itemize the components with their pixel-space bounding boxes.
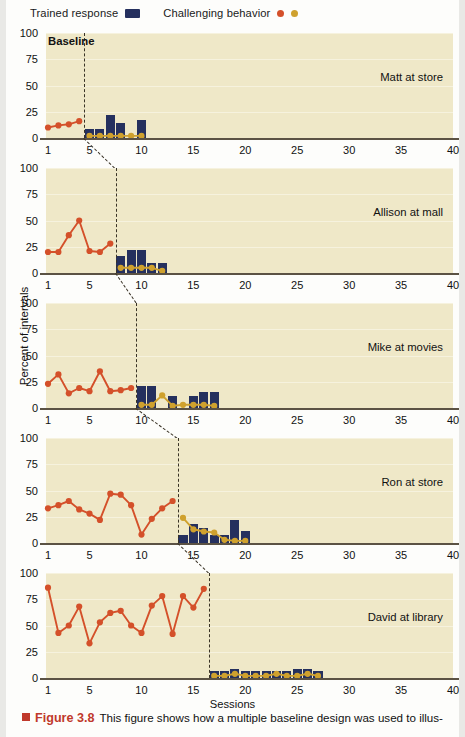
y-axis-tick-label: 50 [26, 485, 38, 497]
x-axis-tick-label: 25 [291, 549, 303, 561]
data-series-overlay [46, 438, 453, 543]
phase-change-line [209, 573, 210, 678]
caption-figure-number: Figure 3.8 [35, 711, 95, 725]
phase-change-line [116, 168, 117, 273]
x-axis-line [40, 408, 459, 410]
data-series-overlay [46, 303, 453, 408]
y-axis-tick-label: 50 [26, 215, 38, 227]
legend-dot-baseline-icon [277, 10, 284, 17]
baseline-challenging-behavior-point [55, 371, 61, 377]
x-axis-tick-label: 20 [239, 279, 251, 291]
x-axis-tick-label: 40 [447, 414, 459, 426]
baseline-challenging-behavior-point [118, 608, 124, 614]
data-series-overlay [46, 573, 453, 678]
x-axis-line [40, 138, 459, 140]
y-axis-tick-label: 25 [26, 646, 38, 658]
baseline-challenging-behavior-point [45, 381, 51, 387]
baseline-challenging-behavior-point [201, 586, 207, 592]
y-axis-tick-label: 100 [20, 27, 38, 39]
x-axis-line [40, 678, 459, 680]
x-axis-tick-label: 35 [395, 549, 407, 561]
data-series-overlay [46, 33, 453, 138]
y-axis-tick-label: 0 [32, 132, 38, 144]
baseline-challenging-behavior-point [128, 385, 134, 391]
x-axis-tick-label: 10 [135, 279, 147, 291]
x-axis-tick-label: 5 [86, 414, 92, 426]
baseline-challenging-behavior-point [55, 630, 61, 636]
plot-area [46, 168, 453, 273]
phase-change-line [84, 33, 85, 138]
legend-label-challenging-behavior: Challenging behavior [163, 7, 270, 19]
y-axis-tick-label: 50 [26, 620, 38, 632]
baseline-challenging-behavior-point [86, 248, 92, 254]
baseline-challenging-behavior-point [66, 232, 72, 238]
x-axis-tick-label: 1 [45, 684, 51, 696]
intervention-challenging-behavior-point [118, 265, 124, 271]
chart-legend: Trained response Challenging behavior [0, 0, 465, 26]
x-axis-tick-label: 30 [343, 414, 355, 426]
baseline-challenging-behavior-point [55, 122, 61, 128]
y-axis-tick-label: 100 [20, 162, 38, 174]
intervention-challenging-behavior-point [159, 392, 165, 398]
baseline-challenging-behavior-point [118, 387, 124, 393]
y-axis-tick-label: 75 [26, 323, 38, 335]
baseline-challenging-behavior-point [159, 593, 165, 599]
baseline-challenging-behavior-point [76, 604, 82, 610]
intervention-challenging-behavior-point [180, 402, 186, 408]
y-axis-tick-label: 75 [26, 53, 38, 65]
intervention-challenging-behavior-point [149, 402, 155, 408]
y-axis-tick-label: 100 [20, 297, 38, 309]
intervention-challenging-behavior-point [138, 402, 144, 408]
chart-panel: 02550751001510152025303540David at libra… [0, 573, 465, 708]
x-axis-tick-label: 10 [135, 684, 147, 696]
intervention-challenging-behavior-point [211, 529, 217, 535]
panel-title: Ron at store [381, 476, 443, 488]
baseline-challenging-behavior-point [97, 517, 103, 523]
x-axis-tick-label: 35 [395, 144, 407, 156]
legend-swatch-trained-response-icon [125, 9, 140, 18]
baseline-challenging-behavior-point [107, 491, 113, 497]
baseline-challenging-behavior-point [45, 585, 51, 591]
intervention-challenging-behavior-point [305, 671, 311, 677]
intervention-challenging-behavior-point [138, 265, 144, 271]
x-axis-tick-label: 15 [187, 414, 199, 426]
intervention-challenging-behavior-point [232, 671, 238, 677]
y-axis-tick-label: 100 [20, 567, 38, 579]
baseline-challenging-behavior-point [86, 388, 92, 394]
baseline-challenging-behavior-point [159, 505, 165, 511]
baseline-challenging-behavior-point [138, 532, 144, 538]
chart-panel: 02550751001510152025303540Matt at storeB… [0, 33, 465, 168]
plot-area [46, 573, 453, 678]
caption-text: This figure shows how a multiple baselin… [100, 711, 443, 724]
baseline-challenging-behavior-point [55, 502, 61, 508]
x-axis-tick-label: 5 [86, 684, 92, 696]
baseline-challenging-behavior-point [76, 118, 82, 124]
chart-panel: 02550751001510152025303540Mike at movies [0, 303, 465, 438]
intervention-challenging-behavior-point [190, 526, 196, 532]
y-axis-tick-label: 25 [26, 106, 38, 118]
x-axis-line [40, 273, 459, 275]
baseline-challenging-behavior-point [86, 640, 92, 646]
x-axis-tick-label: 20 [239, 414, 251, 426]
y-axis-tick-label: 100 [20, 432, 38, 444]
x-axis-tick-label: 20 [239, 684, 251, 696]
y-axis-tick-label: 25 [26, 241, 38, 253]
intervention-challenging-behavior-point [201, 402, 207, 408]
x-axis-tick-label: 1 [45, 279, 51, 291]
y-axis-tick-label: 75 [26, 188, 38, 200]
intervention-challenging-behavior-point [128, 265, 134, 271]
y-axis-tick-label: 25 [26, 511, 38, 523]
legend-dot-intervention-icon [291, 10, 298, 17]
x-axis-tick-label: 10 [135, 144, 147, 156]
baseline-challenging-behavior-point [107, 610, 113, 616]
x-axis-tick-label: 40 [447, 144, 459, 156]
x-axis-tick-label: 10 [135, 549, 147, 561]
baseline-challenging-behavior-line [48, 221, 110, 253]
x-axis-tick-label: 35 [395, 684, 407, 696]
panel-title: Mike at movies [368, 341, 443, 353]
baseline-challenging-behavior-point [170, 631, 176, 637]
baseline-challenging-behavior-point [138, 630, 144, 636]
x-axis-tick-label: 25 [291, 684, 303, 696]
intervention-challenging-behavior-point [201, 528, 207, 534]
chart-panel: 02550751001510152025303540Allison at mal… [0, 168, 465, 303]
